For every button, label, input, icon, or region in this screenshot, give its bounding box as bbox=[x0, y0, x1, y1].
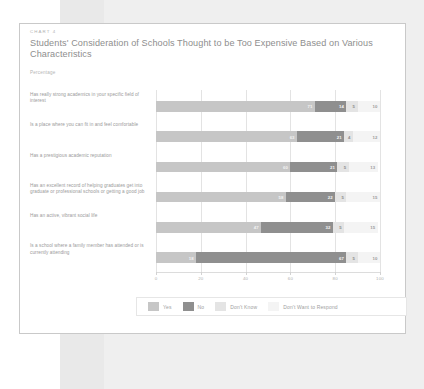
bar-segment-dont-want-to-respond: 10 bbox=[358, 252, 380, 263]
bar-segment-no: 22 bbox=[286, 192, 335, 203]
bar-segment-value: 10 bbox=[373, 255, 378, 260]
x-axis-tick-label: 60 bbox=[288, 276, 293, 281]
bar-segment-yes: 58 bbox=[156, 192, 286, 203]
x-axis-tick bbox=[335, 272, 336, 275]
bar-segment-no: 21 bbox=[297, 131, 344, 142]
legend-item-label: Yes bbox=[163, 304, 172, 310]
chart-plot-area: Has really strong academics in your spec… bbox=[30, 90, 395, 282]
bar-segment-value: 5 bbox=[353, 104, 356, 109]
x-axis-tick-label: 40 bbox=[243, 276, 248, 281]
x-axis-tick-label: 20 bbox=[198, 276, 203, 281]
bar-segment-dont-want-to-respond: 10 bbox=[358, 101, 380, 112]
legend-item-label: Don't Want to Respond bbox=[283, 304, 338, 310]
bar-segment-dont-want-to-respond: 15 bbox=[344, 222, 378, 233]
x-axis-tick bbox=[246, 272, 247, 275]
x-axis-tick bbox=[201, 272, 202, 275]
bar-segment-value: 22 bbox=[328, 195, 333, 200]
chart-bar-track: 6321412 bbox=[156, 131, 380, 142]
bar-segment-value: 32 bbox=[325, 225, 330, 230]
bar-segment-value: 5 bbox=[341, 195, 344, 200]
bar-segment-yes: 71 bbox=[156, 101, 315, 112]
bar-segment-yes: 18 bbox=[156, 252, 196, 263]
bar-segment-dont-know: 5 bbox=[335, 192, 346, 203]
chart-row-label: Has an excellent record of helping gradu… bbox=[30, 183, 150, 195]
bar-segment-yes: 47 bbox=[156, 222, 261, 233]
bar-segment-value: 21 bbox=[337, 134, 342, 139]
bar-segment-dont-want-to-respond: 13 bbox=[349, 162, 378, 173]
legend-item-no[interactable]: No bbox=[183, 302, 205, 311]
bar-segment-value: 13 bbox=[370, 164, 375, 169]
bar-segment-value: 10 bbox=[373, 104, 378, 109]
bar-segment-value: 15 bbox=[373, 195, 378, 200]
legend-item-label: No bbox=[198, 304, 205, 310]
bar-segment-dont-know: 5 bbox=[333, 222, 344, 233]
legend-swatch-icon bbox=[268, 302, 279, 311]
chart-row: Has an excellent record of helping gradu… bbox=[30, 181, 395, 211]
bar-segment-no: 32 bbox=[261, 222, 333, 233]
bar-segment-yes: 60 bbox=[156, 162, 290, 173]
x-axis-tick bbox=[156, 272, 157, 275]
bar-segment-dont-want-to-respond: 15 bbox=[346, 192, 380, 203]
bar-segment-no: 21 bbox=[290, 162, 337, 173]
chart-row: Has an active, vibrant social life473251… bbox=[30, 211, 395, 241]
bar-segment-dont-know: 5 bbox=[337, 162, 348, 173]
bar-segment-value: 5 bbox=[344, 164, 347, 169]
chart-row: Is a school where a family member has at… bbox=[30, 241, 395, 271]
chart-card-inner: CHART 4 Students' Consideration of Schoo… bbox=[30, 29, 395, 328]
bar-segment-dont-know: 4 bbox=[344, 131, 353, 142]
legend-swatch-icon bbox=[183, 302, 194, 311]
chart-row: Has a prestigious academic reputation602… bbox=[30, 151, 395, 181]
legend-item-label: Don't Know bbox=[230, 304, 257, 310]
chart-row-label: Has a prestigious academic reputation bbox=[30, 153, 150, 159]
x-axis-tick bbox=[380, 272, 381, 275]
bar-segment-value: 47 bbox=[254, 225, 259, 230]
bar-segment-value: 58 bbox=[278, 195, 283, 200]
bar-segment-value: 5 bbox=[353, 255, 356, 260]
legend-item-dont-want-to-respond[interactable]: Don't Want to Respond bbox=[268, 302, 338, 311]
chart-row-label: Has really strong academics in your spec… bbox=[30, 92, 150, 104]
chart-bar-track: 1867510 bbox=[156, 252, 380, 263]
legend-swatch-icon bbox=[215, 302, 226, 311]
bar-segment-value: 60 bbox=[283, 164, 288, 169]
bar-segment-value: 5 bbox=[339, 225, 342, 230]
chart-row: Has really strong academics in your spec… bbox=[30, 90, 395, 120]
bar-segment-value: 63 bbox=[290, 134, 295, 139]
legend-item-yes[interactable]: Yes bbox=[148, 302, 172, 311]
bar-segment-dont-want-to-respond: 12 bbox=[353, 131, 380, 142]
chart-subtitle: Percentage bbox=[30, 70, 395, 75]
chart-bar-track: 5822515 bbox=[156, 192, 380, 203]
bar-segment-value: 71 bbox=[308, 104, 313, 109]
chart-bar-track: 7114510 bbox=[156, 101, 380, 112]
chart-title: Students' Consideration of Schools Thoug… bbox=[30, 38, 395, 61]
bar-segment-no: 67 bbox=[196, 252, 346, 263]
bar-segment-value: 14 bbox=[339, 104, 344, 109]
bar-segment-value: 18 bbox=[189, 255, 194, 260]
x-axis-tick-label: 0 bbox=[155, 276, 158, 281]
chart-bar-track: 4732515 bbox=[156, 222, 380, 233]
chart-row: Is a place where you can fit in and feel… bbox=[30, 120, 395, 150]
bar-segment-value: 15 bbox=[370, 225, 375, 230]
bar-segment-value: 67 bbox=[339, 255, 344, 260]
bar-segment-value: 21 bbox=[330, 164, 335, 169]
x-axis-tick bbox=[290, 272, 291, 275]
bar-segment-no: 14 bbox=[315, 101, 346, 112]
chart-kicker: CHART 4 bbox=[30, 29, 395, 34]
chart-legend: YesNoDon't KnowDon't Want to Respond bbox=[136, 297, 407, 316]
chart-row-label: Has an active, vibrant social life bbox=[30, 213, 150, 219]
chart-bar-track: 6021513 bbox=[156, 162, 380, 173]
chart-card: CHART 4 Students' Consideration of Schoo… bbox=[19, 23, 406, 334]
bar-segment-value: 12 bbox=[373, 134, 378, 139]
chart-row-label: Is a school where a family member has at… bbox=[30, 243, 150, 255]
x-axis-line bbox=[156, 272, 380, 273]
chart-rows: Has really strong academics in your spec… bbox=[30, 90, 395, 272]
x-axis-tick-label: 80 bbox=[333, 276, 338, 281]
chart-row-label: Is a place where you can fit in and feel… bbox=[30, 122, 150, 128]
bar-segment-value: 4 bbox=[348, 134, 351, 139]
x-axis-tick-label: 100 bbox=[376, 276, 384, 281]
legend-item-dont-know[interactable]: Don't Know bbox=[215, 302, 257, 311]
bar-segment-dont-know: 5 bbox=[346, 101, 357, 112]
bar-segment-yes: 63 bbox=[156, 131, 297, 142]
legend-swatch-icon bbox=[148, 302, 159, 311]
bar-segment-dont-know: 5 bbox=[346, 252, 357, 263]
chart-x-axis: 020406080100 bbox=[156, 272, 380, 286]
